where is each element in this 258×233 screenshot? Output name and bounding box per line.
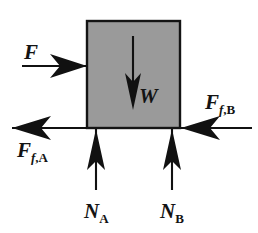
- friction-b-label: Ff,B: [204, 90, 236, 117]
- free-body-diagram: F W Ff,A Ff,B N: [0, 0, 258, 233]
- friction-a-label: Ff,A: [16, 138, 49, 165]
- force-friction-a: Ff,A: [12, 116, 87, 165]
- force-normal-b: NB: [159, 129, 184, 226]
- diagram-canvas: F W Ff,A Ff,B N: [0, 0, 258, 233]
- applied-force-label: F: [23, 40, 38, 64]
- force-normal-a: NA: [83, 129, 109, 226]
- normal-b-label: NB: [159, 199, 184, 226]
- force-applied: F: [22, 40, 87, 78]
- force-friction-b: Ff,B: [181, 90, 252, 140]
- weight-force-label: W: [139, 84, 159, 108]
- normal-a-label: NA: [83, 199, 109, 226]
